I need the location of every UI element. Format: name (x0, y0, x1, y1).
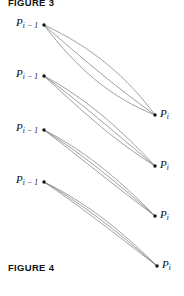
label-base: P (16, 121, 23, 133)
label-subscript: i (167, 163, 169, 172)
figure-curve-canvas (0, 0, 184, 296)
end-point-dot-row-3 (153, 214, 156, 217)
end-point-dot-row-1 (153, 113, 156, 116)
label-subscript: i − 1 (23, 72, 38, 81)
curve-4-3 (44, 182, 157, 266)
label-p-i-minus-1-row-4: Pi − 1 (4, 174, 38, 187)
start-point-dot-row-4 (42, 180, 45, 183)
label-subscript: i − 1 (23, 178, 38, 187)
label-p-i-row-1: Pi (160, 108, 169, 121)
curve-1-2 (44, 25, 155, 115)
label-subscript: i − 1 (23, 21, 38, 30)
label-p-i-row-2: Pi (160, 159, 169, 172)
end-point-dot-row-4 (155, 264, 158, 267)
start-point-dot-row-3 (42, 128, 45, 131)
start-point-dot-row-2 (42, 74, 45, 77)
start-point-dot-row-1 (42, 23, 45, 26)
endpoint-dots (42, 23, 158, 267)
label-p-i-minus-1-row-2: Pi − 1 (4, 68, 38, 81)
label-p-i-row-4: Pi (162, 259, 171, 272)
label-base: P (160, 158, 167, 170)
curve-bundles (44, 25, 157, 266)
label-subscript: i (167, 213, 169, 222)
label-base: P (16, 67, 23, 79)
figure-page: FIGURE 3 FIGURE 4 Pi − 1PiPi − 1PiPi − 1… (0, 0, 184, 296)
curve-1-3 (44, 25, 155, 115)
label-subscript: i − 1 (23, 126, 38, 135)
label-base: P (162, 258, 169, 270)
label-base: P (160, 107, 167, 119)
label-p-i-row-3: Pi (160, 209, 169, 222)
curve-1-1 (44, 25, 155, 115)
curve-3-3 (44, 130, 155, 216)
label-base: P (16, 173, 23, 185)
figure-caption-bottom: FIGURE 4 (8, 262, 54, 273)
label-subscript: i (169, 263, 171, 272)
label-base: P (160, 208, 167, 220)
label-subscript: i (167, 112, 169, 121)
end-point-dot-row-2 (153, 164, 156, 167)
label-p-i-minus-1-row-1: Pi − 1 (4, 17, 38, 30)
curve-2-2 (44, 76, 155, 166)
label-base: P (16, 16, 23, 28)
label-p-i-minus-1-row-3: Pi − 1 (4, 122, 38, 135)
